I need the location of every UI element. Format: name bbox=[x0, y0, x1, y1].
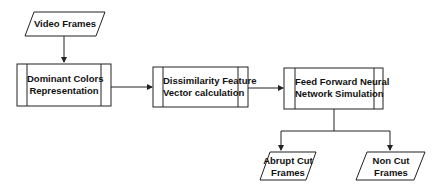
dissimilarity-line2: Vector calculation bbox=[163, 87, 238, 99]
video-frames-label: Video Frames bbox=[25, 18, 105, 30]
branch-connector bbox=[281, 109, 390, 150]
dissimilarity-line1: Dissimilarity Feature bbox=[163, 75, 238, 87]
non-cut-line1: Non Cut bbox=[362, 155, 420, 167]
video-frames-text: Video Frames bbox=[34, 18, 96, 29]
non-cut-line2: Frames bbox=[362, 167, 420, 179]
dominant-colors-line1: Dominant Colors bbox=[27, 73, 101, 85]
ffnn-label: Feed Forward Neural Network Simulation bbox=[295, 76, 374, 100]
abrupt-cut-label: Abrupt Cut Frames bbox=[262, 155, 314, 179]
dominant-colors-line2: Representation bbox=[27, 85, 101, 97]
dominant-colors-label: Dominant Colors Representation bbox=[27, 73, 101, 97]
ffnn-line1: Feed Forward Neural bbox=[295, 76, 374, 88]
abrupt-cut-line1: Abrupt Cut bbox=[262, 155, 314, 167]
ffnn-line2: Network Simulation bbox=[295, 88, 374, 100]
dissimilarity-label: Dissimilarity Feature Vector calculation bbox=[163, 75, 238, 99]
abrupt-cut-line2: Frames bbox=[262, 167, 314, 179]
non-cut-label: Non Cut Frames bbox=[362, 155, 420, 179]
